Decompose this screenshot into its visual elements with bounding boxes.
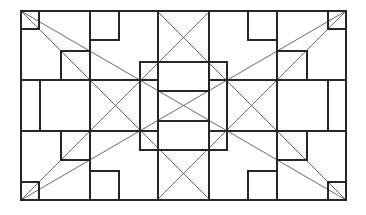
diagonal-lines-group (21, 11, 346, 200)
box-top-inner-right (248, 11, 277, 40)
box-top-inner-left (90, 11, 119, 40)
box-bottom-inner-right (248, 171, 277, 200)
box-bottom-inner-left (90, 171, 119, 200)
geometric-pattern-diagram (0, 0, 366, 215)
